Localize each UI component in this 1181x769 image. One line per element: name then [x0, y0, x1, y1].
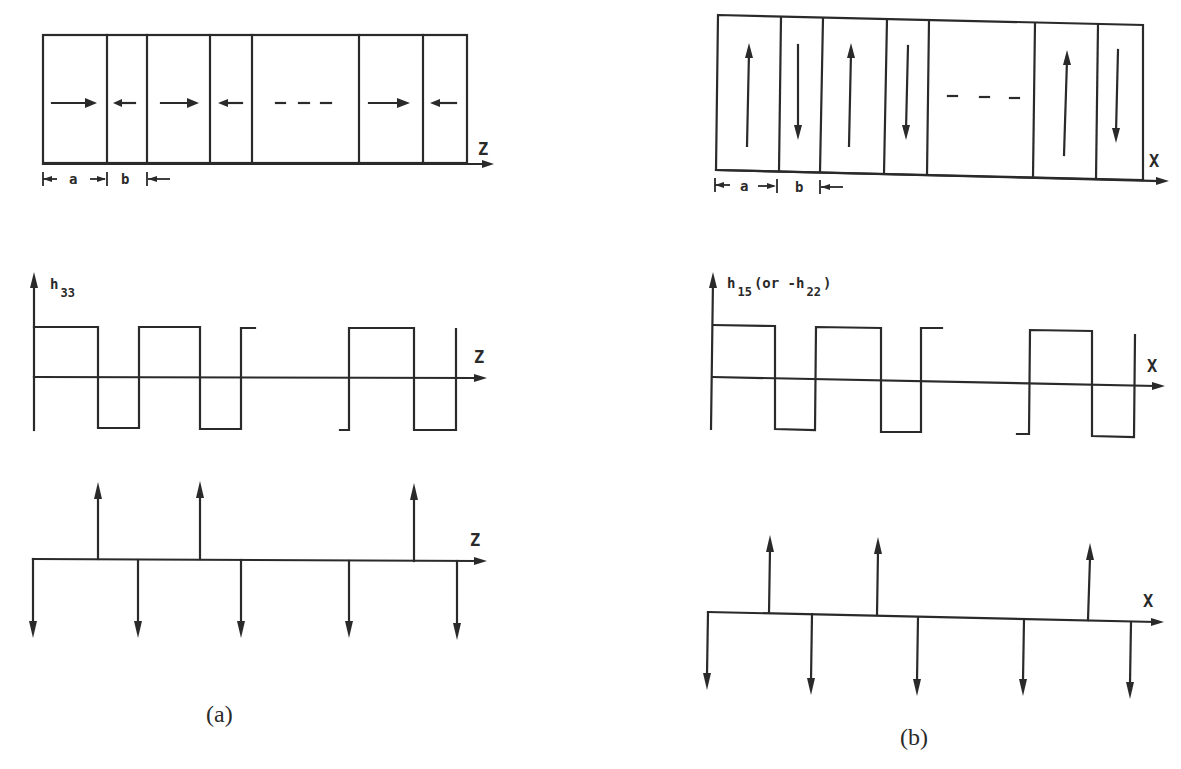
down-arrows	[703, 612, 1134, 699]
arrowhead-icon	[30, 272, 38, 288]
y-axis-label-b: h15(or -h22)	[727, 275, 831, 299]
x-axis-label-b2: X	[1147, 356, 1158, 376]
arrowhead-icon	[474, 557, 487, 565]
arrow-up-icon	[745, 43, 753, 58]
dim-label-b: b	[795, 179, 803, 195]
x-axis-label-b: X	[1149, 151, 1160, 171]
arrow-up-icon	[874, 537, 882, 554]
polarization-arrows	[745, 43, 1120, 155]
coefficient-plot-a: h33 Z	[30, 272, 487, 430]
arrow-down-icon	[794, 125, 802, 140]
z-axis-label: Z	[478, 139, 488, 159]
up-arrows	[94, 481, 418, 561]
arrow-down-icon	[902, 125, 910, 140]
domain-walls	[779, 17, 1098, 179]
x-axis-label-a2: Z	[470, 530, 480, 550]
arrow-up-icon	[847, 43, 855, 58]
dim-label-a: a	[69, 171, 77, 187]
coefficient-plot-b: h15(or -h22) X	[709, 272, 1165, 437]
arrow-up-icon	[410, 483, 418, 500]
arrow-down-icon	[1126, 682, 1134, 699]
x-axis	[33, 559, 477, 561]
y-axis	[711, 280, 713, 429]
arrow-down-icon	[345, 621, 353, 638]
arrow-down-icon	[703, 673, 711, 690]
arrow-right-icon	[397, 98, 410, 108]
x-axis-label-a: Z	[474, 347, 484, 367]
figure: Z a b	[0, 0, 1181, 769]
arrow-up-icon	[1063, 50, 1071, 65]
panel-b: X a b	[703, 15, 1169, 750]
arrowhead-icon	[482, 160, 494, 168]
arrow-right-icon	[187, 98, 199, 108]
arrowhead-icon	[709, 272, 717, 288]
x-axis	[716, 170, 1160, 181]
arrow-down-icon	[807, 678, 815, 695]
down-arrows	[29, 559, 461, 640]
arrow-left-icon	[218, 99, 228, 107]
panel-a: Z a b	[29, 35, 494, 727]
caption-b: (b)	[900, 724, 928, 750]
delta-plot-a: Z	[29, 481, 487, 640]
arrow-down-icon	[453, 623, 461, 640]
dimension-marks: a b	[715, 178, 843, 195]
polarization-arrows	[52, 98, 456, 108]
arrow-down-icon	[29, 621, 37, 638]
dim-label-a: a	[740, 178, 748, 194]
arrow-up-icon	[1086, 543, 1094, 560]
arrow-up-icon	[94, 482, 102, 499]
domain-structure-b: X a b	[715, 15, 1169, 195]
arrow-up-icon	[766, 535, 774, 552]
arrow-up-icon	[196, 481, 204, 498]
up-arrows	[766, 535, 1094, 620]
arrow-left-icon	[430, 99, 440, 107]
dim-label-b: b	[121, 171, 129, 187]
arrow-down-icon	[913, 679, 921, 696]
arrow-down-icon	[1112, 128, 1120, 143]
delta-plot-b: X	[703, 535, 1164, 699]
x-axis	[34, 377, 477, 378]
arrow-right-icon	[85, 98, 97, 108]
arrowhead-icon	[1156, 177, 1169, 185]
dimension-marks: a b	[43, 171, 170, 187]
arrow-down-icon	[237, 621, 245, 638]
domain-structure-a: Z a b	[43, 35, 494, 187]
x-axis-label-b3: X	[1143, 591, 1154, 611]
arrow-down-icon	[134, 621, 142, 638]
y-axis-label-a: h33	[50, 276, 75, 300]
caption-a: (a)	[206, 701, 233, 727]
x-axis	[713, 377, 1155, 386]
arrow-left-icon	[113, 99, 122, 107]
arrowhead-icon	[1152, 382, 1165, 390]
arrow-down-icon	[1019, 679, 1027, 696]
arrowhead-icon	[1151, 618, 1164, 626]
domain-walls	[107, 35, 423, 163]
arrowhead-icon	[474, 374, 487, 382]
ellipsis-dashes	[948, 96, 1019, 98]
